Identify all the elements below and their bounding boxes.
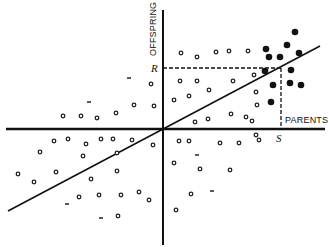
hollow-point [227,49,231,53]
hollow-point [84,142,88,146]
filled-point [268,99,275,106]
hollow-point [79,114,83,118]
hollow-point [257,138,261,142]
filled-point [284,42,291,49]
hollow-point [152,104,156,108]
hollow-point [195,79,199,83]
hollow-point [254,133,258,137]
hollow-point [179,51,183,55]
hollow-point [174,208,178,212]
s-marker: S [276,132,282,144]
hollow-point [16,172,20,176]
filled-point [296,50,303,57]
hollow-point [81,154,85,158]
hollow-point [228,168,232,172]
filled-point [277,54,284,61]
hollow-point [119,193,123,197]
hollow-point [178,79,182,83]
hollow-point [61,114,65,118]
hollow-point [38,150,42,154]
hollow-point [54,170,58,174]
filled-point [270,82,277,89]
hollow-point [151,143,155,147]
filled-points [262,29,305,106]
hollow-point [97,193,101,197]
hollow-point [237,141,241,145]
filled-point [292,29,299,36]
hollow-point [147,198,151,202]
hollow-point [172,98,176,102]
hollow-point [89,177,93,181]
hollow-point [99,137,103,141]
filled-point [266,54,273,61]
filled-point [288,67,295,74]
hollow-point [214,50,218,54]
hollow-point [206,117,210,121]
filled-point [263,46,270,53]
hollow-point [149,82,153,86]
hollow-point [246,49,250,53]
dash-points [65,78,214,218]
hollow-point [250,119,254,123]
hollow-point [177,139,181,143]
hollow-point [198,167,202,171]
hollow-point [137,190,141,194]
hollow-point [115,169,119,173]
hollow-point [255,103,259,107]
hollow-point [229,112,233,116]
hollow-point [254,90,258,94]
hollow-point [207,88,211,92]
r-marker: R [150,62,158,74]
hollow-point [172,161,176,165]
hollow-point [231,79,235,83]
hollow-point [193,120,197,124]
hollow-point [252,73,256,77]
hollow-point [116,214,120,218]
hollow-point [132,103,136,107]
hollow-point [218,141,222,145]
hollow-point [95,116,99,120]
hollow-point [244,115,248,119]
filled-point [262,68,269,75]
hollow-point [115,151,119,155]
filled-point [287,80,294,87]
hollow-point [189,192,193,196]
scatter-diagram: OFFSPRING PARENTS R S [0,0,329,247]
hollow-point [114,111,118,115]
hollow-point [66,137,70,141]
hollow-point [187,94,191,98]
hollow-point [77,195,81,199]
hollow-point [111,137,115,141]
hollow-point [130,138,134,142]
hollow-point [52,139,56,143]
y-axis-label: OFFSPRING [148,2,158,56]
hollow-points [16,49,261,218]
hollow-point [195,55,199,59]
filled-point [298,82,305,89]
hollow-point [187,139,191,143]
x-axis-label: PARENTS [285,115,328,125]
hollow-point [32,180,36,184]
